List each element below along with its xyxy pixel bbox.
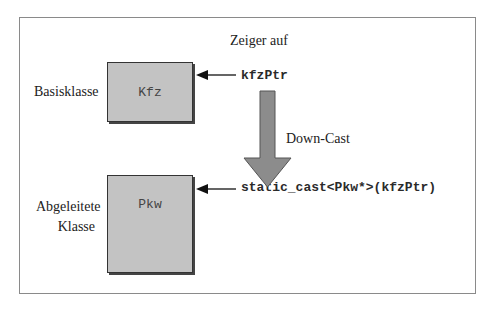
down-cast-arrow-icon xyxy=(244,91,291,187)
arrows-layer xyxy=(0,0,497,313)
derived-pointer-arrow-icon xyxy=(196,184,236,194)
base-pointer-arrow-icon xyxy=(196,70,236,80)
